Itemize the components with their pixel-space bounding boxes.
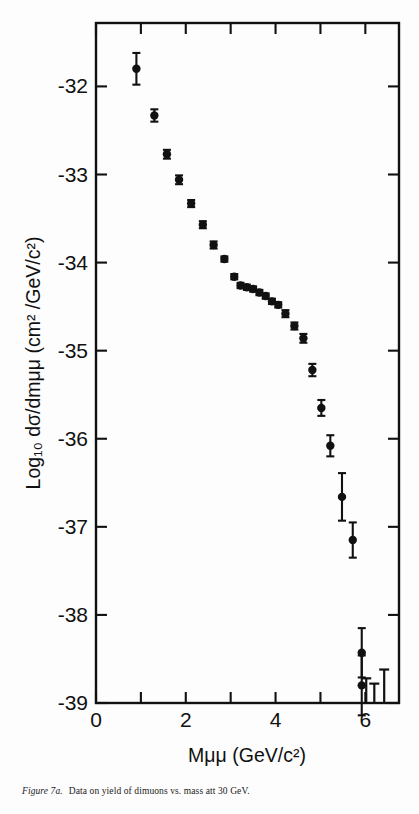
y-tick-label: -38 bbox=[58, 603, 88, 626]
x-tick-label: 0 bbox=[90, 708, 102, 731]
y-tick-label: -37 bbox=[58, 515, 88, 538]
figure-container: 0246 -32-33-34-35-36-37-38-39 Mμμ (GeV/c… bbox=[0, 0, 419, 814]
data-point bbox=[317, 404, 325, 412]
data-point bbox=[358, 681, 366, 689]
data-point bbox=[220, 255, 228, 263]
y-tick-label: -33 bbox=[58, 163, 88, 186]
data-point bbox=[281, 309, 289, 317]
svg-text:Log₁₀ dσ/dmμμ (cm² /GeV/c²): Log₁₀ dσ/dmμμ (cm² /GeV/c²) bbox=[22, 237, 44, 490]
figure-caption-text: Data on yield of dimuons vs. mass att 30… bbox=[69, 786, 250, 796]
plot-frame bbox=[96, 23, 399, 703]
x-tick-labels: 0246 bbox=[90, 708, 371, 731]
data-point bbox=[349, 536, 357, 544]
y-axis-title: Log₁₀ dσ/dmμμ (cm² /GeV/c²) bbox=[22, 237, 44, 490]
x-axis-title: Mμμ (GeV/c²) bbox=[188, 744, 306, 766]
data-point bbox=[326, 442, 334, 450]
data-point bbox=[187, 199, 195, 207]
y-tick-label: -35 bbox=[58, 339, 88, 362]
data-point bbox=[150, 111, 158, 119]
data-point bbox=[175, 176, 183, 184]
data-point bbox=[338, 493, 346, 501]
y-tick-label: -32 bbox=[58, 74, 88, 97]
x-tick-label: 2 bbox=[180, 708, 192, 731]
svg-text:Mμμ (GeV/c²): Mμμ (GeV/c²) bbox=[188, 744, 306, 766]
data-point bbox=[290, 322, 298, 330]
y-tick-label: -39 bbox=[58, 691, 88, 714]
data-point bbox=[132, 65, 140, 73]
data-point bbox=[163, 150, 171, 158]
dimuon-yield-chart: 0246 -32-33-34-35-36-37-38-39 Mμμ (GeV/c… bbox=[0, 0, 419, 814]
data-point bbox=[209, 241, 217, 249]
figure-number: Figure 7a. bbox=[22, 786, 63, 796]
data-point bbox=[308, 366, 316, 374]
data-point bbox=[230, 272, 238, 280]
y-tick-labels: -32-33-34-35-36-37-38-39 bbox=[58, 74, 89, 714]
x-tick-label: 4 bbox=[270, 708, 282, 731]
axis-ticks bbox=[96, 23, 399, 703]
data-point bbox=[299, 334, 307, 342]
y-tick-label: -36 bbox=[58, 427, 88, 450]
upper-limit-markers bbox=[361, 670, 389, 702]
figure-caption: Figure 7a.Data on yield of dimuons vs. m… bbox=[22, 786, 402, 796]
data-point bbox=[274, 301, 282, 309]
data-point bbox=[199, 221, 207, 229]
data-series bbox=[132, 53, 366, 715]
y-tick-label: -34 bbox=[58, 251, 89, 274]
